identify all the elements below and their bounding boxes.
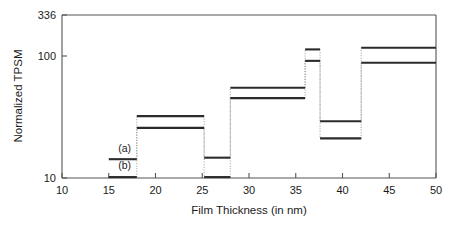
step-chart-svg: 336 100 10 101520253035404550 (a)(b) Fil… — [0, 0, 461, 229]
y-tick-label-100: 100 — [38, 50, 56, 62]
y-tickmarks — [62, 15, 67, 178]
annotation-b: (b) — [118, 159, 131, 171]
x-axis-title: Film Thickness (in nm) — [191, 204, 307, 216]
x-tick-label-30: 30 — [243, 184, 255, 196]
x-tick-label-20: 20 — [149, 184, 161, 196]
y-tick-label-10: 10 — [44, 172, 56, 184]
x-tick-label-40: 40 — [336, 184, 348, 196]
x-tick-label-10: 10 — [56, 184, 68, 196]
annotation-a: (a) — [118, 142, 131, 154]
series-risers — [137, 48, 361, 177]
x-tick-label-35: 35 — [290, 184, 302, 196]
y-axis-title: Normalized TPSM — [12, 49, 24, 142]
x-tick-label-25: 25 — [196, 184, 208, 196]
x-tick-label-50: 50 — [430, 184, 442, 196]
x-tick-label-15: 15 — [103, 184, 115, 196]
series-group — [109, 48, 436, 177]
x-tick-labels: 101520253035404550 — [56, 184, 442, 196]
series-annotations: (a)(b) — [118, 142, 131, 171]
chart-figure: 336 100 10 101520253035404550 (a)(b) Fil… — [0, 0, 461, 229]
y-tick-label-336: 336 — [38, 9, 56, 21]
x-tick-label-45: 45 — [383, 184, 395, 196]
